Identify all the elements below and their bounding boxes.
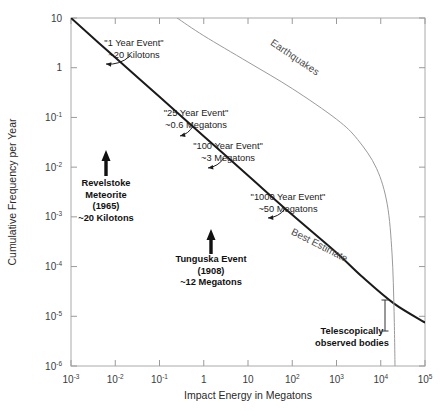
x-tick-label: 10-3 (63, 373, 80, 385)
one-year-event-line: ~20 Kilotons (108, 50, 160, 60)
earthquakes-label: Earthquakes (269, 37, 322, 78)
revelstoke-meteorite-line: ~20 Kilotons (78, 213, 134, 223)
x-axis-title: Impact Energy in Megatons (184, 389, 312, 401)
tunguska-event-pointer-arrow (207, 229, 216, 254)
x-tick-label: 102 (285, 373, 300, 385)
thousand-year-event-line: ~50 Megatons (258, 204, 318, 214)
thousand-year-event-line: "1000 Year Event" (251, 192, 326, 202)
twentyfive-year-event-arrowhead (180, 133, 186, 138)
telescopically-observed-bodies-line: Telescopically (321, 326, 385, 336)
hundred-year-event-line: "100 Year Event" (193, 141, 263, 151)
tunguska-event-line: ~12 Megatons (180, 277, 242, 287)
y-tick-label: 10-6 (45, 360, 62, 372)
one-year-event-line: "1 Year Event" (104, 38, 163, 48)
axis-titles-group: Impact Energy in MegatonsCumulative Freq… (6, 118, 312, 401)
twentyfive-year-event-line: ~0.6 Megatons (165, 120, 227, 130)
hundred-year-event-arrowhead (208, 165, 214, 170)
x-tick-label: 10-2 (107, 373, 124, 385)
x-tick-label: 10 (242, 374, 254, 385)
x-tick-label: 1 (201, 374, 207, 385)
revelstoke-meteorite-line: Meteorite (85, 190, 126, 200)
y-tick-label: 10-1 (45, 111, 62, 123)
chart-canvas: 10-310-210-111010210310410510110-110-210… (0, 0, 440, 411)
y-tick-label: 10-2 (45, 161, 62, 173)
y-axis-title: Cumulative Frequency per Year (6, 118, 18, 266)
y-tick-label: 1 (56, 62, 62, 73)
telescopically-observed-bodies-line: observed bodies (315, 338, 389, 348)
y-tick-label: 10-5 (45, 310, 62, 322)
twentyfive-year-event-line: "25 Year Event" (164, 108, 229, 118)
series-best-estimate (71, 18, 425, 323)
thousand-year-event-arrowhead (268, 215, 273, 220)
x-tick-label: 105 (418, 373, 433, 385)
tunguska-event-line: Tunguska Event (175, 254, 246, 264)
tunguska-event-line: (1908) (198, 266, 225, 276)
best-estimate-label: Best Estimate (290, 226, 350, 264)
revelstoke-meteorite-pointer-arrow (102, 150, 111, 176)
hundred-year-event-line: ~3 Megatons (201, 153, 255, 163)
revelstoke-meteorite-line: Revelstoke (81, 178, 130, 188)
x-tick-label: 103 (329, 373, 344, 385)
impact-frequency-chart: 10-310-210-111010210310410510110-110-210… (0, 0, 440, 411)
y-tick-label: 10-4 (45, 260, 62, 272)
y-tick-label: 10-3 (45, 210, 62, 222)
x-tick-label: 104 (373, 373, 388, 385)
x-tick-label: 10-1 (151, 373, 168, 385)
y-tick-label: 10 (51, 13, 63, 24)
annotations-group: "1 Year Event"~20 Kilotons"25 Year Event… (78, 38, 389, 348)
revelstoke-meteorite-line: (1965) (93, 201, 120, 211)
